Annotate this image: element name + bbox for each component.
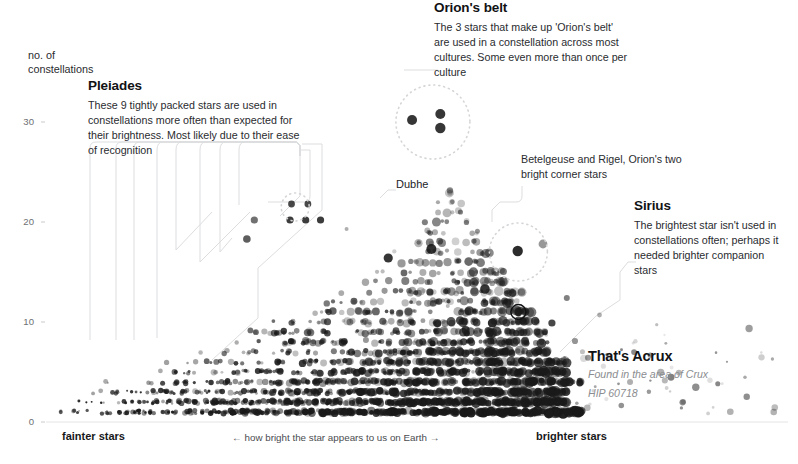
y-axis-tick-30: 30 <box>10 116 34 127</box>
annotation-betelgeuse-body: Betelgeuse and Rigel, Orion's two bright… <box>521 152 693 182</box>
annotation-orion-belt: Orion's belt The 3 stars that make up 'O… <box>434 0 630 80</box>
x-axis-left-label: fainter stars <box>62 430 125 442</box>
chart-stage: no. of constellations Pleiades These 9 t… <box>0 0 798 464</box>
annotation-orion-belt-body: The 3 stars that make up 'Orion's belt' … <box>434 20 630 81</box>
annotation-sirius: Sirius The brightest star isn't used in … <box>634 198 786 278</box>
annotation-betelgeuse: Betelgeuse and Rigel, Orion's two bright… <box>521 152 693 182</box>
annotation-pleiades-title: Pleiades <box>88 78 300 94</box>
acrux-tooltip-name: That's Acrux <box>588 348 788 364</box>
x-axis-center-label: ← how bright the star appears to us on E… <box>232 432 439 443</box>
y-axis-title-line1: no. of <box>28 48 93 62</box>
y-axis-tick-0: 0 <box>10 416 34 427</box>
annotation-sirius-title: Sirius <box>634 198 786 214</box>
annotation-pleiades: Pleiades These 9 tightly packed stars ar… <box>88 78 300 158</box>
y-axis-tick-10: 10 <box>10 316 34 327</box>
x-axis-right-label: brighter stars <box>536 430 607 442</box>
y-axis-title-line2: constellations <box>28 62 93 76</box>
annotation-orion-belt-title: Orion's belt <box>434 0 630 16</box>
acrux-tooltip-area: Found in the area of Crux <box>588 367 788 383</box>
annotation-dubhe-label: Dubhe <box>396 177 428 192</box>
acrux-tooltip: That's Acrux Found in the area of Crux H… <box>588 348 788 402</box>
acrux-tooltip-catalog-id: HIP 60718 <box>588 386 788 402</box>
annotation-pleiades-body: These 9 tightly packed stars are used in… <box>88 98 300 159</box>
y-axis-tick-20: 20 <box>10 216 34 227</box>
annotation-sirius-body: The brightest star isn't used in constel… <box>634 218 786 279</box>
y-axis-title: no. of constellations <box>28 48 93 77</box>
